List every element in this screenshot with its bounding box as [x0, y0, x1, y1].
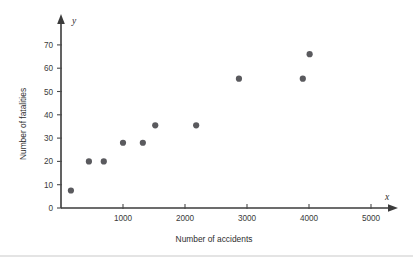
data-point	[86, 158, 92, 164]
data-point	[300, 76, 306, 82]
data-point	[236, 76, 242, 82]
data-point	[193, 122, 199, 128]
data-point	[68, 187, 74, 193]
x-axis-arrow-icon	[388, 204, 398, 212]
data-point	[120, 140, 126, 146]
x-tick-label-3000: 3000	[238, 214, 257, 223]
y-tick-label-30: 30	[44, 134, 54, 143]
data-point	[101, 158, 107, 164]
y-axis-tick-labels: 010203040506070	[44, 41, 54, 213]
x-axis-title: Number of accidents	[176, 234, 253, 244]
data-points-group	[68, 51, 313, 194]
scatter-plot-figure: 010203040506070 10002000300040005000 Num…	[0, 0, 413, 258]
y-tick-label-20: 20	[44, 157, 54, 166]
y-tick-label-50: 50	[44, 88, 54, 97]
plot-canvas: 010203040506070 10002000300040005000 Num…	[0, 0, 413, 258]
data-point	[152, 122, 158, 128]
x-tick-label-2000: 2000	[176, 214, 195, 223]
data-point	[307, 51, 313, 57]
x-tick-label-4000: 4000	[300, 214, 319, 223]
x-axis-variable-symbol: x	[384, 192, 390, 202]
y-axis-arrow-icon	[57, 14, 65, 24]
y-tick-label-40: 40	[44, 111, 54, 120]
y-tick-label-70: 70	[44, 41, 54, 50]
y-axis-title: Number of fatalities	[18, 88, 28, 160]
y-tick-label-10: 10	[44, 181, 54, 190]
x-tick-label-1000: 1000	[114, 214, 133, 223]
x-axis-tick-labels: 10002000300040005000	[114, 214, 381, 223]
x-tick-label-5000: 5000	[362, 214, 381, 223]
y-axis-variable-symbol: y	[71, 16, 77, 26]
data-point	[140, 140, 146, 146]
y-tick-label-60: 60	[44, 64, 54, 73]
axes-group	[57, 14, 398, 212]
y-tick-label-0: 0	[48, 204, 53, 213]
